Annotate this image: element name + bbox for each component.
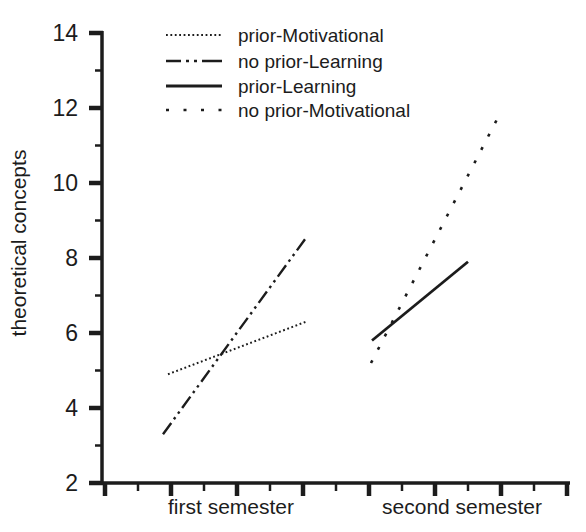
series-line-dash-dot-dot bbox=[163, 239, 305, 434]
y-tick-label: 2 bbox=[65, 470, 78, 496]
chart-figure: 2468101214first semestersecond semestert… bbox=[0, 0, 586, 532]
y-tick-label: 14 bbox=[52, 20, 78, 46]
legend-label: prior-Learning bbox=[238, 76, 356, 97]
y-tick-label: 8 bbox=[65, 245, 78, 271]
legend-label: no prior-Motivational bbox=[238, 100, 410, 121]
x-category-label: first semester bbox=[168, 495, 294, 518]
series-line-dotted bbox=[168, 322, 306, 375]
y-tick-label: 10 bbox=[52, 170, 78, 196]
legend-label: no prior-Learning bbox=[238, 51, 383, 72]
y-tick-label: 12 bbox=[52, 95, 78, 121]
series-line-solid bbox=[372, 262, 468, 341]
y-tick-label: 4 bbox=[65, 395, 78, 421]
y-axis-title: theoretical concepts bbox=[7, 150, 30, 337]
x-category-label: second semester bbox=[382, 495, 542, 518]
line-chart: 2468101214first semestersecond semestert… bbox=[0, 0, 586, 532]
legend-label: prior-Motivational bbox=[238, 25, 384, 46]
y-tick-label: 6 bbox=[65, 320, 78, 346]
